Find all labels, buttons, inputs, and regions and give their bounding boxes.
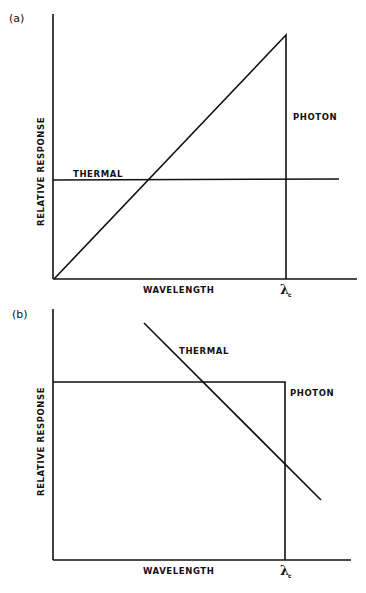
- panel-b-lambda-sub: c: [288, 572, 292, 579]
- panel-b-label: (b): [12, 308, 28, 321]
- panel-a-thermal-label: THERMAL: [73, 169, 123, 179]
- figure: (a) THERMAL PHOTON WAVELENGTH RELATIVE R…: [0, 0, 366, 593]
- panel-a-lambda-sub: c: [288, 291, 292, 298]
- panel-b: (b) THERMAL PHOTON WAVELENGTH RELATIVE R…: [12, 308, 351, 579]
- panel-b-y-axis-label: RELATIVE RESPONSE: [36, 387, 46, 496]
- panel-a-photon-curve: [54, 35, 286, 279]
- panel-a: (a) THERMAL PHOTON WAVELENGTH RELATIVE R…: [9, 12, 357, 298]
- panel-b-thermal-label: THERMAL: [179, 346, 229, 356]
- panel-b-x-axis-label: WAVELENGTH: [143, 566, 214, 576]
- panel-a-photon-label: PHOTON: [293, 112, 337, 122]
- panel-a-label: (a): [9, 12, 24, 25]
- panel-b-photon-label: PHOTON: [290, 388, 334, 398]
- panel-a-thermal-curve: [53, 179, 339, 180]
- panel-b-photon-curve: [53, 382, 285, 560]
- panel-b-thermal-curve: [144, 323, 321, 500]
- panel-a-y-axis-label: RELATIVE RESPONSE: [36, 117, 46, 226]
- panel-a-x-axis-label: WAVELENGTH: [143, 285, 214, 295]
